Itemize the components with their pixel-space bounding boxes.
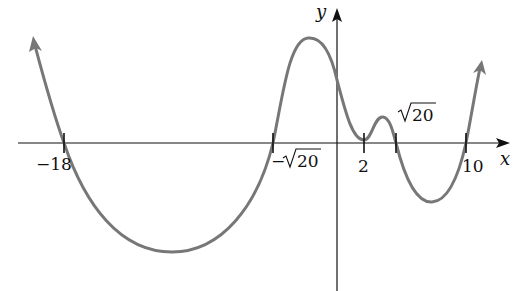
svg-text:20: 20 xyxy=(297,151,319,171)
tick-label-neg-sqrt20: − 20 xyxy=(271,149,321,171)
y-axis-label: y xyxy=(315,1,327,22)
x-axis-label: x xyxy=(500,148,510,169)
y-axis xyxy=(332,8,342,291)
polynomial-graph: x y −18 − 20 2 20 10 xyxy=(0,0,515,291)
svg-text:20: 20 xyxy=(412,105,434,125)
tick-label-2: 2 xyxy=(358,156,369,176)
tick-label-neg18: −18 xyxy=(36,154,72,174)
x-axis xyxy=(18,138,510,148)
tick-label-sqrt20: 20 xyxy=(398,103,436,125)
tick-label-10: 10 xyxy=(462,156,484,176)
polynomial-curve xyxy=(34,38,480,252)
svg-text:−: − xyxy=(271,151,285,171)
